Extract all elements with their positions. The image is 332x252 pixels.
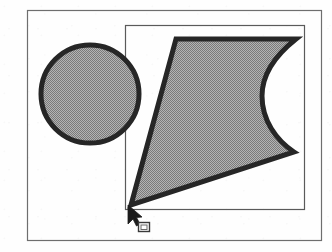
selection-handle-inner [141,225,147,230]
circle-shape[interactable] [41,45,139,143]
figure-canvas [0,0,332,252]
selection-handle[interactable] [139,223,150,232]
scanned-figure [0,0,332,252]
